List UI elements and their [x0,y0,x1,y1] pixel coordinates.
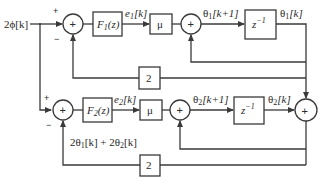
feedback-gain-block-1: 2 [139,67,160,89]
feedback-gain-block-2: 2 [140,155,160,176]
svg-text:2: 2 [146,159,152,171]
plus-sign: + [53,6,58,16]
svg-text:+: + [188,18,194,30]
sum-feedback-label: 2θ1[k] + 2θ2[k] [70,136,137,150]
accumulator-feedback-2 [180,121,306,149]
accumulator-summer-2: + [170,100,190,120]
filter-f1-block: F1(z) [93,12,122,36]
mu-gain-block-2: μ [140,100,162,120]
theta1-next-label: θ1[k+1] [203,7,239,21]
svg-text:+: + [302,105,308,117]
theta2-label: θ2[k] [268,93,291,107]
svg-text:+: + [177,104,183,116]
theta1-output-wire [276,24,306,98]
svg-text:+: + [70,18,76,30]
plus-sign: + [44,93,49,103]
error-e1-label: e1[k] [125,7,147,21]
svg-text:F2(z): F2(z) [86,104,110,118]
minus-sign: − [46,120,51,130]
pll-block-diagram: 2ϕ[k] + + − F1(z) e1[k] μ + θ1[k+1] z−1 … [0,0,323,184]
svg-text:F1(z): F1(z) [96,18,120,32]
filter-f2-block: F2(z) [83,98,112,122]
svg-text:μ: μ [147,104,153,116]
delay-block-1: z−1 [245,10,276,39]
svg-text:2: 2 [146,72,152,84]
theta1-label: θ1[k] [280,7,303,21]
svg-text:+: + [60,104,66,116]
diagram-svg: 2ϕ[k] + + − F1(z) e1[k] μ + θ1[k+1] z−1 … [0,0,323,184]
delay-block-2: z−1 [234,97,264,124]
minus-sign: − [54,34,59,44]
upper-input-summer: + + − [53,6,83,44]
accumulator-summer-1: + [181,14,201,34]
svg-text:μ: μ [157,18,163,30]
error-e2-label: e2[k] [114,93,136,107]
input-label: 2ϕ[k] [4,18,28,30]
theta2-next-label: θ2[k+1] [193,93,229,107]
mu-gain-block-1: μ [150,14,172,34]
output-summer: + [295,99,317,121]
lower-input-summer: + + − [44,93,73,130]
gain-feedback-1 [73,35,139,78]
